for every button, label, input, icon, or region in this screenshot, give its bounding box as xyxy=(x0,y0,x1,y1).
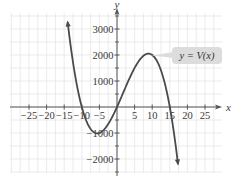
x-tick-label: −15 xyxy=(56,110,72,121)
y-tick-label: −2000 xyxy=(87,154,114,165)
x-tick-label: −25 xyxy=(21,110,37,121)
curve-end-arrow-icon xyxy=(175,159,180,165)
x-tick-label: 25 xyxy=(200,110,211,121)
callout-label: y = V(x) xyxy=(178,50,215,62)
curve-start-arrow-icon xyxy=(66,21,71,27)
x-axis-label: x xyxy=(225,101,231,113)
x-tick-label: 20 xyxy=(182,110,193,121)
x-tick-label: −10 xyxy=(74,110,90,121)
y-tick-label: 1000 xyxy=(93,76,114,87)
callout: y = V(x) xyxy=(151,47,222,64)
y-axis-label: y xyxy=(114,0,120,10)
chart: −25−20−15−10−5510152025−2000−10001000200… xyxy=(0,0,243,182)
grid xyxy=(10,13,222,173)
x-tick-label: −5 xyxy=(94,110,105,121)
x-tick-label: 10 xyxy=(147,110,158,121)
y-tick-label: 2000 xyxy=(93,50,114,61)
x-tick-label: −20 xyxy=(38,110,54,121)
x-tick-label: 5 xyxy=(132,110,137,121)
y-tick-label: 3000 xyxy=(93,24,114,35)
axes xyxy=(10,8,222,176)
